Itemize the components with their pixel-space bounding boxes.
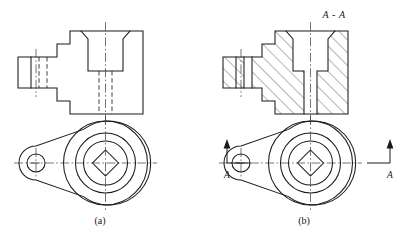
section-title-aa: A - A bbox=[321, 9, 345, 20]
cutting-plane-right-arrow-icon bbox=[387, 139, 394, 149]
cutting-plane-left: A bbox=[223, 139, 250, 180]
front-view-a-group bbox=[18, 22, 143, 124]
technical-drawing-figure: (a) A - A bbox=[0, 0, 404, 235]
top-view-a-group bbox=[14, 116, 157, 210]
caption-panel-a: (a) bbox=[94, 215, 105, 227]
front-view-b-section-group bbox=[223, 22, 348, 124]
cutting-plane-left-label: A bbox=[223, 170, 230, 180]
front-b-hatched-material bbox=[223, 31, 348, 114]
cutting-plane-left-arrow-icon bbox=[224, 139, 231, 149]
caption-panel-b: (b) bbox=[298, 215, 310, 227]
front-a-outline bbox=[18, 31, 143, 114]
engineering-drawing-canvas: (a) A - A bbox=[0, 0, 404, 235]
cutting-plane-right: A bbox=[367, 139, 393, 180]
cutting-plane-right-label: A bbox=[386, 170, 393, 180]
